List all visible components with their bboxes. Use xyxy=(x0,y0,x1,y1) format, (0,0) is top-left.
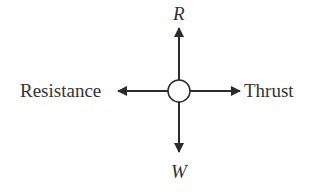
label-R: R xyxy=(173,4,185,23)
label-resistance: Resistance xyxy=(20,81,101,100)
body-circle xyxy=(168,80,190,102)
label-W: W xyxy=(171,162,187,181)
label-thrust: Thrust xyxy=(244,81,294,100)
